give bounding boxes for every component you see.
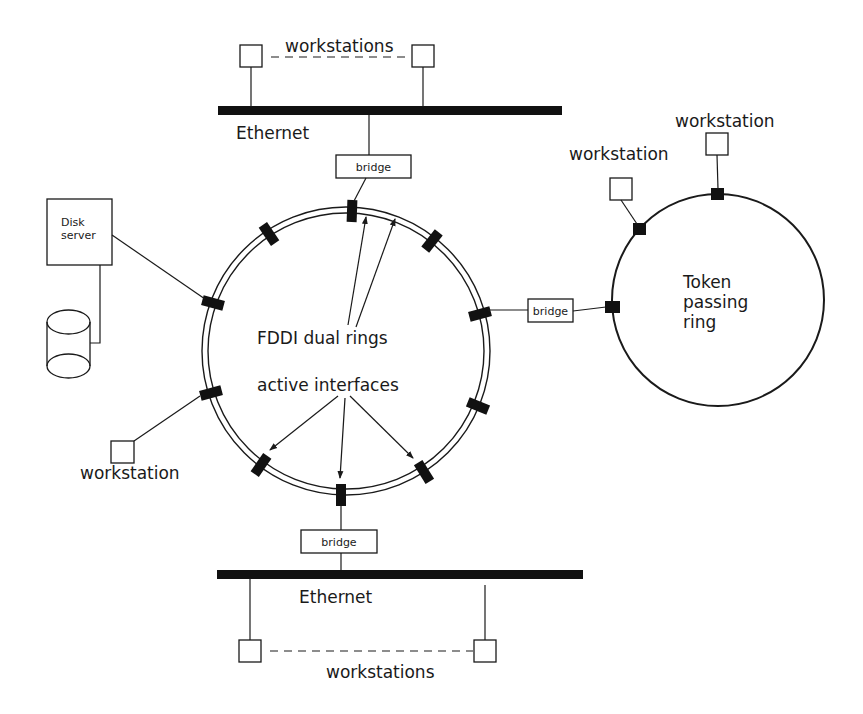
- active-interfaces-label: active interfaces: [257, 375, 399, 395]
- bottom-ethernet-bus: [217, 570, 583, 579]
- arrow-to-inner-ring: [356, 219, 395, 327]
- token-ring-label-line3: ring: [683, 312, 716, 332]
- fddi-port-top: [347, 200, 358, 222]
- fddi-outer-ring: [202, 207, 490, 495]
- top-bridge-to-fddi: [354, 178, 366, 201]
- network-diagram: Ethernet workstations bridge FDDI dual: [0, 0, 863, 714]
- left-workstation-label: workstation: [80, 463, 180, 483]
- token-ring-port-workstation-1: [633, 223, 646, 235]
- arrow-to-interface-bottom-left: [270, 396, 338, 450]
- token-passing-ring-group: workstation workstation Token passing ri…: [569, 111, 824, 406]
- bottom-workstation-right: [474, 640, 496, 662]
- disk-server-label-line1: Disk: [61, 216, 85, 229]
- fddi-dual-ring: FDDI dual rings active interfaces: [199, 200, 492, 506]
- disk-cylinder-icon: [47, 310, 90, 378]
- token-ring-workstation-1-link: [621, 200, 637, 224]
- top-workstation-left: [240, 45, 262, 67]
- right-bridge-label: bridge: [533, 305, 569, 318]
- arrow-to-outer-ring: [348, 217, 366, 325]
- fddi-inner-ring: [208, 213, 484, 489]
- token-ring-workstation-1-label: workstation: [569, 144, 669, 164]
- top-ethernet-bus: [218, 106, 562, 115]
- fddi-port-bottom: [336, 484, 346, 506]
- token-ring-port-workstation-2: [711, 188, 724, 200]
- bottom-ethernet-segment: bridge Ethernet workstations: [217, 506, 583, 682]
- arrow-to-interface-bottom-right: [350, 396, 413, 458]
- disk-server-to-storage: [90, 265, 100, 343]
- right-bridge-group: bridge: [488, 299, 606, 322]
- right-bridge-to-token-ring: [573, 307, 606, 311]
- bottom-workstation-left: [239, 640, 261, 662]
- bottom-bridge-label: bridge: [321, 536, 357, 549]
- top-ethernet-segment: Ethernet workstations bridge: [218, 36, 562, 201]
- fddi-port-left-lower: [199, 385, 223, 400]
- top-workstations-label: workstations: [285, 36, 394, 56]
- top-bridge-label: bridge: [356, 161, 392, 174]
- disk-server-group: Disk server: [47, 199, 205, 378]
- bottom-ethernet-label: Ethernet: [299, 587, 373, 607]
- fddi-ports: [199, 200, 492, 506]
- arrow-to-interface-bottom: [340, 398, 345, 478]
- fddi-port-bottom-right: [414, 460, 434, 484]
- left-workstation-to-fddi: [134, 396, 200, 441]
- token-ring-workstation-2-link: [717, 155, 718, 189]
- token-ring-label-line1: Token: [682, 272, 731, 292]
- token-ring-workstation-1: [610, 178, 632, 200]
- top-workstation-right: [412, 45, 434, 67]
- fddi-dual-rings-label: FDDI dual rings: [257, 328, 388, 348]
- left-workstation-group: workstation: [80, 396, 200, 483]
- left-workstation: [111, 441, 134, 463]
- token-ring-workstation-2: [706, 133, 728, 155]
- token-ring-label-line2: passing: [683, 292, 748, 312]
- bottom-workstations-label: workstations: [326, 662, 435, 682]
- disk-server-label-line2: server: [61, 229, 96, 242]
- token-ring-port-bridge: [605, 301, 620, 313]
- top-ethernet-label: Ethernet: [236, 123, 310, 143]
- token-ring-workstation-2-label: workstation: [675, 111, 775, 131]
- disk-server-to-fddi: [112, 235, 205, 299]
